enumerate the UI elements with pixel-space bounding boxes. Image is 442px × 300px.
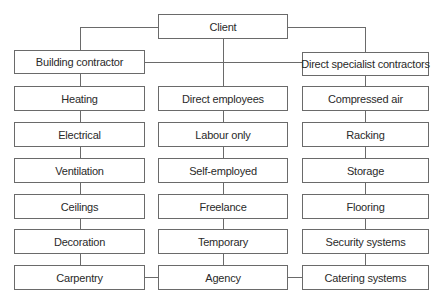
node-labour-only: Labour only <box>158 122 288 147</box>
node-temporary: Temporary <box>158 229 288 254</box>
node-ventilation: Ventilation <box>14 158 145 183</box>
node-racking: Racking <box>302 122 429 147</box>
node-compressed-air: Compressed air <box>302 86 429 111</box>
connector-right-trunk-top <box>365 27 366 52</box>
connector-left-trunk-top <box>80 27 81 50</box>
node-ceilings: Ceilings <box>14 194 145 219</box>
node-carpentry: Carpentry <box>14 265 145 290</box>
node-freelance: Freelance <box>158 194 288 219</box>
node-self-employed: Self-employed <box>158 158 288 183</box>
connector-bottom-right <box>287 277 302 278</box>
node-catering-systems: Catering systems <box>302 265 429 290</box>
node-agency: Agency <box>158 265 288 290</box>
org-chart: Client Building contractor Direct specia… <box>0 0 442 300</box>
node-direct-employees: Direct employees <box>158 86 288 111</box>
connector-client-left <box>80 27 158 28</box>
connector-client-right <box>287 27 366 28</box>
node-heating: Heating <box>14 86 145 111</box>
node-building-contractor: Building contractor <box>14 50 145 74</box>
node-flooring: Flooring <box>302 194 429 219</box>
node-decoration: Decoration <box>14 229 145 254</box>
connector-contractors <box>144 62 302 63</box>
node-client: Client <box>158 14 288 39</box>
node-electrical: Electrical <box>14 122 145 147</box>
node-security-systems: Security systems <box>302 229 429 254</box>
node-storage: Storage <box>302 158 429 183</box>
node-direct-specialist-contractors: Direct specialist contractors <box>302 52 429 76</box>
connector-bottom-left <box>144 277 158 278</box>
